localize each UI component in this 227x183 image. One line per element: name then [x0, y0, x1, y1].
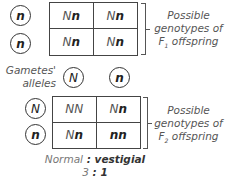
gamete-allele-circle: n [109, 67, 130, 88]
genotype-plain: N [65, 128, 74, 142]
f2-punnett-square: NN Nn Nn nn [52, 96, 141, 149]
label-line: F1 offspring [150, 35, 227, 52]
allele-label: n [115, 71, 124, 85]
label-line: F2 offspring [150, 130, 227, 147]
genotype-plain: N [106, 9, 115, 23]
label-text: offspring [168, 35, 218, 47]
genotype-bold: nn [110, 128, 127, 142]
f1-cell: Nn [94, 3, 138, 29]
f2-cell: Nn [53, 123, 97, 149]
label-line: Gametes' [0, 64, 56, 77]
allele-label: N [31, 102, 40, 116]
f1-genotypes-label: Possible genotypes of F1 offspring [150, 9, 227, 52]
phenotype-ratio-labels: Normal : vestigial [40, 153, 150, 165]
f1-row-allele-circle: n [10, 33, 31, 54]
label-line: genotypes of [150, 22, 227, 35]
genotype-bold: n [71, 35, 80, 49]
f1-bracket [141, 3, 146, 55]
genotype-bold: n [74, 128, 83, 142]
f2-bracket [143, 97, 148, 149]
gametes-label: Gametes' alleles [0, 64, 56, 90]
label-line: genotypes of [150, 117, 227, 130]
f1-cell: Nn [50, 29, 94, 55]
f2-cell: NN [53, 97, 97, 123]
genotype-bold: n [115, 35, 124, 49]
f1-punnett-square: Nn Nn Nn Nn [49, 2, 138, 56]
vestigial-label: vestigial [95, 153, 146, 165]
label-text: offspring [168, 130, 218, 142]
label-line: alleles [0, 77, 56, 90]
ratio-right: 1 [100, 166, 107, 178]
genotype-bold: n [115, 9, 124, 23]
label-line: Possible [150, 9, 227, 22]
f2-row-allele-circle: n [25, 124, 46, 145]
f2-cell: Nn [97, 97, 141, 123]
ratio-separator: : [83, 153, 95, 165]
genotype-plain: NN [65, 102, 83, 116]
genotype-plain: N [62, 35, 71, 49]
genotype-plain: N [106, 35, 115, 49]
f1-cell: Nn [50, 3, 94, 29]
allele-label: N [69, 71, 78, 85]
genotype-plain: N [62, 9, 71, 23]
f1-row-allele-circle: n [10, 5, 31, 26]
f2-cell: nn [97, 123, 141, 149]
phenotype-ratio-values: 3 : 1 [40, 166, 150, 178]
genotype-bold: n [71, 9, 80, 23]
normal-label: Normal [45, 153, 83, 165]
allele-label: n [31, 128, 40, 142]
label-line: Possible [150, 104, 227, 117]
f1-cell: Nn [94, 29, 138, 55]
f2-genotypes-label: Possible genotypes of F2 offspring [150, 104, 227, 147]
allele-label: n [16, 9, 25, 23]
gamete-allele-circle: N [63, 67, 84, 88]
genotype-plain: N [109, 102, 118, 116]
ratio-left: 3 [82, 166, 89, 178]
genotype-bold: n [118, 102, 127, 116]
allele-label: n [16, 37, 25, 51]
f2-row-allele-circle: N [25, 98, 46, 119]
ratio-colon: : [89, 166, 101, 178]
